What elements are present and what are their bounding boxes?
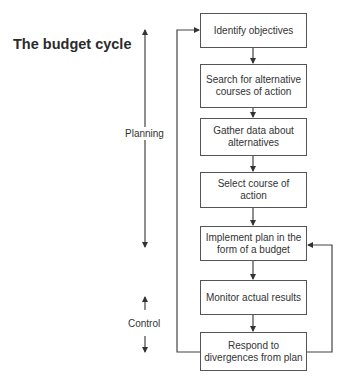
step-label: Respond to divergences from plan xyxy=(204,340,303,364)
step-label: Identify objectives xyxy=(214,25,294,37)
step-search-alternatives: Search for alternative courses of action xyxy=(200,64,307,108)
step-label: Implement plan in the form of a budget xyxy=(204,232,303,256)
planning-label: Planning xyxy=(125,127,164,140)
step-select-course: Select course of action xyxy=(200,172,307,208)
step-label: Select course of action xyxy=(204,178,303,202)
step-label: Search for alternative courses of action xyxy=(204,74,303,98)
step-respond-divergences: Respond to divergences from plan xyxy=(200,332,307,371)
step-label: Monitor actual results xyxy=(206,292,301,304)
step-monitor-results: Monitor actual results xyxy=(200,280,307,315)
step-gather-data: Gather data about alternatives xyxy=(200,118,307,156)
feedback-loop-left xyxy=(177,30,200,352)
step-implement-plan: Implement plan in the form of a budget xyxy=(200,226,307,261)
feedback-loop-right xyxy=(307,245,332,352)
step-label: Gather data about alternatives xyxy=(204,125,303,149)
step-identify-objectives: Identify objectives xyxy=(200,13,307,48)
control-label: Control xyxy=(128,317,160,330)
